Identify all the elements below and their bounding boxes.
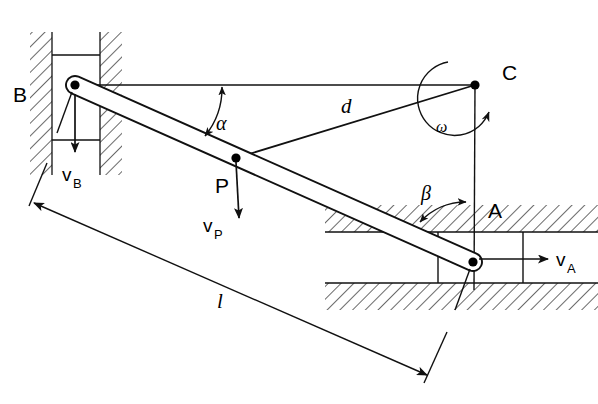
pivot-p-dot: [231, 153, 240, 162]
label-angle-alpha: α: [216, 112, 227, 134]
label-point-p: P: [215, 174, 229, 197]
pivot-c-dot: [470, 80, 479, 89]
label-velocity-a-main: v: [556, 249, 566, 270]
mechanism-figure: B C A P v B v P v A α β ω d l: [0, 0, 598, 404]
vertical-guide-left-wall: [30, 32, 52, 175]
label-length-d: d: [341, 94, 352, 118]
label-velocity-b-sub: B: [73, 176, 82, 191]
label-velocity-b-main: v: [62, 164, 72, 185]
horizontal-guide-lower-wall: [325, 283, 598, 310]
label-point-c: C: [502, 61, 517, 84]
label-point-a: A: [488, 199, 502, 222]
pivot-a-dot: [468, 257, 477, 266]
mechanism-diagram: B C A P v B v P v A α β ω d l: [0, 0, 598, 404]
label-velocity-p-sub: P: [214, 227, 223, 242]
label-angle-beta: β: [420, 182, 431, 205]
label-length-l: l: [217, 289, 223, 313]
label-point-b: B: [13, 83, 27, 106]
label-angular-velocity: ω: [436, 118, 447, 135]
label-velocity-p-main: v: [203, 215, 213, 236]
pivot-b-dot: [70, 80, 79, 89]
label-velocity-a-sub: A: [567, 261, 576, 276]
